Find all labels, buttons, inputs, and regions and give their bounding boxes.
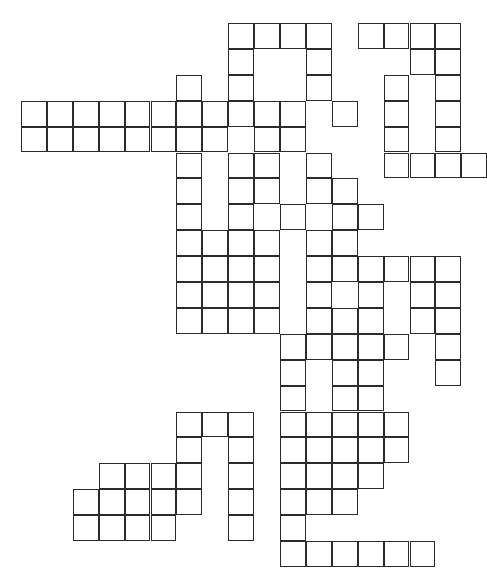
grid-cell[interactable] <box>410 256 436 282</box>
grid-cell[interactable] <box>176 489 202 515</box>
grid-cell[interactable] <box>435 282 461 308</box>
grid-cell[interactable] <box>435 49 461 75</box>
grid-cell[interactable] <box>176 463 202 489</box>
grid-cell[interactable] <box>306 489 332 515</box>
grid-cell[interactable] <box>228 489 254 515</box>
grid-cell[interactable] <box>151 515 177 541</box>
grid-cell[interactable] <box>306 282 332 308</box>
grid-cell[interactable] <box>202 412 228 438</box>
grid-cell[interactable] <box>151 101 177 127</box>
grid-cell[interactable] <box>358 412 384 438</box>
grid-cell[interactable] <box>125 101 151 127</box>
grid-cell[interactable] <box>176 75 202 101</box>
grid-cell[interactable] <box>306 49 332 75</box>
grid-cell[interactable] <box>254 256 280 282</box>
grid-cell[interactable] <box>280 437 306 463</box>
grid-cell[interactable] <box>332 489 358 515</box>
grid-cell[interactable] <box>202 256 228 282</box>
grid-cell[interactable] <box>435 308 461 334</box>
grid-cell[interactable] <box>280 541 306 567</box>
grid-cell[interactable] <box>125 127 151 153</box>
grid-cell[interactable] <box>99 463 125 489</box>
grid-cell[interactable] <box>125 489 151 515</box>
grid-cell[interactable] <box>306 412 332 438</box>
grid-cell[interactable] <box>358 437 384 463</box>
grid-cell[interactable] <box>228 515 254 541</box>
grid-cell[interactable] <box>435 153 461 179</box>
grid-cell[interactable] <box>435 334 461 360</box>
grid-cell[interactable] <box>176 178 202 204</box>
grid-cell[interactable] <box>228 204 254 230</box>
grid-cell[interactable] <box>280 515 306 541</box>
grid-cell[interactable] <box>21 127 47 153</box>
grid-cell[interactable] <box>228 153 254 179</box>
grid-cell[interactable] <box>202 101 228 127</box>
grid-cell[interactable] <box>228 256 254 282</box>
grid-cell[interactable] <box>358 360 384 386</box>
grid-cell[interactable] <box>410 541 436 567</box>
grid-cell[interactable] <box>99 101 125 127</box>
grid-cell[interactable] <box>202 282 228 308</box>
grid-cell[interactable] <box>358 23 384 49</box>
grid-cell[interactable] <box>151 127 177 153</box>
grid-cell[interactable] <box>99 515 125 541</box>
grid-cell[interactable] <box>254 101 280 127</box>
grid-cell[interactable] <box>332 412 358 438</box>
grid-cell[interactable] <box>384 101 410 127</box>
grid-cell[interactable] <box>306 256 332 282</box>
grid-cell[interactable] <box>228 230 254 256</box>
grid-cell[interactable] <box>358 334 384 360</box>
grid-cell[interactable] <box>125 515 151 541</box>
grid-cell[interactable] <box>306 437 332 463</box>
grid-cell[interactable] <box>332 541 358 567</box>
grid-cell[interactable] <box>435 256 461 282</box>
grid-cell[interactable] <box>151 463 177 489</box>
grid-cell[interactable] <box>306 178 332 204</box>
grid-cell[interactable] <box>280 412 306 438</box>
grid-cell[interactable] <box>306 23 332 49</box>
grid-cell[interactable] <box>176 308 202 334</box>
grid-cell[interactable] <box>332 463 358 489</box>
grid-cell[interactable] <box>228 282 254 308</box>
grid-cell[interactable] <box>176 153 202 179</box>
grid-cell[interactable] <box>280 101 306 127</box>
grid-cell[interactable] <box>332 386 358 412</box>
grid-cell[interactable] <box>176 256 202 282</box>
grid-cell[interactable] <box>358 386 384 412</box>
grid-cell[interactable] <box>176 282 202 308</box>
grid-cell[interactable] <box>202 308 228 334</box>
grid-cell[interactable] <box>151 489 177 515</box>
grid-cell[interactable] <box>358 282 384 308</box>
grid-cell[interactable] <box>254 178 280 204</box>
grid-cell[interactable] <box>306 541 332 567</box>
grid-cell[interactable] <box>332 256 358 282</box>
grid-cell[interactable] <box>332 437 358 463</box>
grid-cell[interactable] <box>306 463 332 489</box>
grid-cell[interactable] <box>306 334 332 360</box>
grid-cell[interactable] <box>332 204 358 230</box>
grid-cell[interactable] <box>280 23 306 49</box>
grid-cell[interactable] <box>176 412 202 438</box>
grid-cell[interactable] <box>332 360 358 386</box>
grid-cell[interactable] <box>332 334 358 360</box>
grid-cell[interactable] <box>410 282 436 308</box>
grid-cell[interactable] <box>254 127 280 153</box>
grid-cell[interactable] <box>228 437 254 463</box>
grid-cell[interactable] <box>228 75 254 101</box>
grid-cell[interactable] <box>461 153 487 179</box>
grid-cell[interactable] <box>254 230 280 256</box>
grid-cell[interactable] <box>73 127 99 153</box>
grid-cell[interactable] <box>358 204 384 230</box>
grid-cell[interactable] <box>176 437 202 463</box>
grid-cell[interactable] <box>410 23 436 49</box>
grid-cell[interactable] <box>332 101 358 127</box>
grid-cell[interactable] <box>280 386 306 412</box>
grid-cell[interactable] <box>384 437 410 463</box>
grid-cell[interactable] <box>332 230 358 256</box>
grid-cell[interactable] <box>384 412 410 438</box>
grid-cell[interactable] <box>280 334 306 360</box>
grid-cell[interactable] <box>384 256 410 282</box>
grid-cell[interactable] <box>384 127 410 153</box>
grid-cell[interactable] <box>435 360 461 386</box>
